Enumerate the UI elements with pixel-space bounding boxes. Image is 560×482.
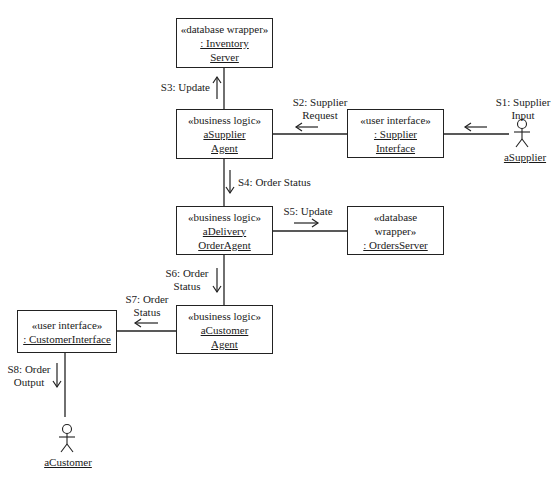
stereotype-label: «user interface» — [360, 113, 431, 127]
object-name-line: Interface — [376, 141, 415, 155]
s4-arrow-down-icon — [226, 170, 234, 193]
message-text: S5: Update — [278, 205, 338, 218]
s1-arrow-left-icon — [465, 123, 487, 131]
object-inventory-server[interactable]: «database wrapper» : Inventory Server — [176, 18, 273, 68]
stereotype-label: «database — [374, 210, 417, 224]
message-text: Input — [488, 109, 558, 122]
object-orders-server[interactable]: «database wrapper» : OrdersServer — [347, 206, 444, 255]
object-name-line: : OrdersServer — [363, 238, 427, 252]
actor-supplier-name[interactable]: aSupplier — [497, 151, 553, 163]
message-text: Status — [162, 280, 212, 293]
object-name-line: aSupplier — [203, 127, 245, 141]
message-s1-label: S1: Supplier Input — [488, 96, 558, 122]
message-s5-label: S5: Update — [278, 205, 338, 218]
object-name-line: OrderAgent — [198, 238, 251, 252]
message-text: Request — [285, 109, 355, 122]
object-supplier-interface[interactable]: «user interface» : Supplier Interface — [347, 109, 444, 158]
s7-arrow-left-icon — [135, 319, 158, 327]
object-name-line: Agent — [211, 141, 238, 155]
message-text: S2: Supplier — [285, 96, 355, 109]
object-name-line: Agent — [211, 337, 238, 351]
s2-arrow-left-icon — [296, 123, 318, 131]
message-text: S6: Order — [162, 267, 212, 280]
message-text: S8: Order — [4, 363, 54, 376]
diagram-connectors — [0, 0, 560, 482]
object-delivery-order-agent[interactable]: «business logic» aDelivery OrderAgent — [176, 206, 273, 255]
customer-actor-icon — [59, 425, 75, 453]
object-name-line: aCustomer — [201, 323, 249, 337]
object-customer-interface[interactable]: «user interface» : CustomerInterface — [17, 310, 117, 353]
s6-arrow-down-icon — [213, 268, 221, 292]
message-text: Output — [4, 376, 54, 389]
object-name-line: aDelivery — [203, 224, 246, 238]
actor-customer-name[interactable]: aCustomer — [38, 456, 98, 468]
supplier-actor-icon — [514, 120, 530, 148]
message-text: S1: Supplier — [488, 96, 558, 109]
message-text: S4: Order Status — [238, 176, 311, 189]
object-customer-agent[interactable]: «business logic» aCustomer Agent — [176, 305, 273, 354]
message-s2-label: S2: Supplier Request — [285, 96, 355, 122]
object-name-line: : Inventory — [200, 36, 249, 50]
stereotype-label: «business logic» — [188, 309, 261, 323]
object-name-line: Server — [210, 50, 239, 64]
message-s3-label: S3: Update — [140, 81, 210, 94]
object-supplier-agent[interactable]: «business logic» aSupplier Agent — [176, 109, 273, 159]
stereotype-label: «business logic» — [188, 113, 261, 127]
stereotype-label: «database wrapper» — [181, 22, 269, 36]
message-s6-label: S6: Order Status — [162, 267, 212, 293]
message-text: Status — [122, 306, 172, 319]
message-s8-label: S8: Order Output — [4, 363, 54, 389]
s3-arrow-up-icon — [213, 77, 221, 99]
s8-arrow-down-icon — [53, 363, 61, 387]
message-text: S3: Update — [140, 81, 210, 94]
s5-arrow-right-icon — [294, 219, 318, 227]
message-s4-label: S4: Order Status — [238, 176, 311, 189]
object-name-line: : Supplier — [374, 127, 417, 141]
message-text: S7: Order — [122, 293, 172, 306]
stereotype-label: «business logic» — [188, 210, 261, 224]
object-name-line: : CustomerInterface — [23, 332, 111, 346]
stereotype-label: wrapper» — [375, 224, 417, 238]
message-s7-label: S7: Order Status — [122, 293, 172, 319]
stereotype-label: «user interface» — [32, 318, 103, 332]
